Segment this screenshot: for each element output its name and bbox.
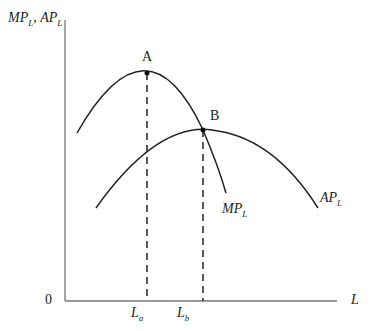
lb-label: Lb — [177, 305, 189, 323]
ap-curve-label: APL — [320, 190, 342, 208]
la-label: La — [131, 305, 143, 323]
point-b — [201, 128, 206, 133]
point-a — [145, 71, 150, 76]
origin-label: 0 — [45, 292, 52, 308]
production-diagram — [0, 0, 376, 331]
mp-curve-label: MPL — [222, 201, 247, 219]
x-axis-label: L — [351, 292, 359, 308]
point-b-label: B — [210, 108, 219, 124]
y-axis-label: MPL, APL — [8, 10, 62, 28]
point-a-label: A — [142, 49, 152, 65]
